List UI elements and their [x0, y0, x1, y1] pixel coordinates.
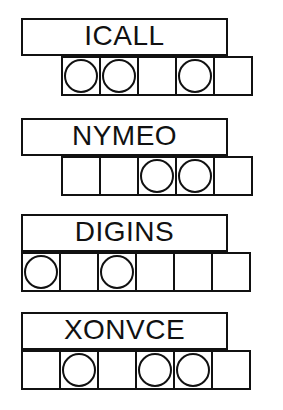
- answer-cell-strip: [21, 350, 251, 390]
- scrambled-word-box: ICALL: [21, 18, 228, 56]
- answer-cell[interactable]: [97, 252, 137, 292]
- circle-marker-icon: [62, 353, 96, 387]
- answer-cell[interactable]: [213, 56, 253, 96]
- answer-cell[interactable]: [135, 252, 175, 292]
- circle-marker-icon: [178, 59, 212, 93]
- answer-cell[interactable]: [175, 156, 215, 196]
- answer-cell[interactable]: [137, 56, 177, 96]
- scrambled-word-box: NYMEO: [21, 118, 228, 156]
- answer-cell-strip: [61, 156, 253, 196]
- circle-marker-icon: [176, 353, 210, 387]
- answer-cell[interactable]: [137, 156, 177, 196]
- scrambled-word-text: XONVCE: [64, 316, 185, 344]
- scrambled-word-box: DIGINS: [21, 214, 228, 252]
- circle-marker-icon: [64, 59, 98, 93]
- scrambled-word-text: DIGINS: [75, 218, 174, 246]
- answer-cell[interactable]: [59, 350, 99, 390]
- worksheet-canvas: ICALLNYMEODIGINSXONVCE: [0, 0, 283, 410]
- scrambled-word-text: NYMEO: [72, 122, 177, 150]
- circle-marker-icon: [24, 255, 58, 289]
- answer-cell[interactable]: [99, 56, 139, 96]
- answer-cell[interactable]: [213, 156, 253, 196]
- answer-cell[interactable]: [61, 56, 101, 96]
- answer-cell[interactable]: [173, 252, 213, 292]
- answer-cell[interactable]: [211, 350, 251, 390]
- answer-cell[interactable]: [211, 252, 251, 292]
- answer-cell-strip: [21, 252, 251, 292]
- scrambled-word-box: XONVCE: [21, 312, 228, 350]
- circle-marker-icon: [178, 159, 212, 193]
- answer-cell[interactable]: [61, 156, 101, 196]
- answer-cell[interactable]: [21, 252, 61, 292]
- answer-cell[interactable]: [21, 350, 61, 390]
- circle-marker-icon: [138, 353, 172, 387]
- answer-cell[interactable]: [173, 350, 213, 390]
- scrambled-word-text: ICALL: [84, 22, 164, 50]
- answer-cell[interactable]: [135, 350, 175, 390]
- answer-cell-strip: [61, 56, 253, 96]
- answer-cell[interactable]: [59, 252, 99, 292]
- circle-marker-icon: [102, 59, 136, 93]
- answer-cell[interactable]: [175, 56, 215, 96]
- circle-marker-icon: [140, 159, 174, 193]
- answer-cell[interactable]: [97, 350, 137, 390]
- circle-marker-icon: [100, 255, 134, 289]
- answer-cell[interactable]: [99, 156, 139, 196]
